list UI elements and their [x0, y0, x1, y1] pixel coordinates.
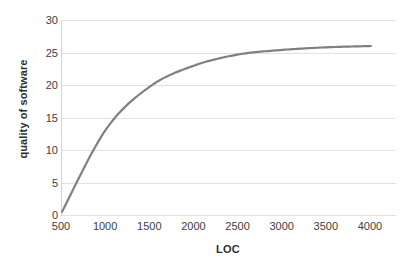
x-axis-tick-label: 2000: [181, 220, 205, 232]
x-axis-tick-label: 500: [52, 220, 70, 232]
y-axis-title-label: quality of software: [17, 59, 29, 158]
y-axis-tick-label: 10: [46, 144, 58, 156]
x-axis-tick-label: 3000: [269, 220, 293, 232]
x-axis-title: LOC: [61, 243, 395, 255]
x-axis-tick-labels: 5001000150020002500300035004000: [61, 220, 395, 238]
x-axis-tick-label: 1000: [93, 220, 117, 232]
y-axis-tick-label: 5: [52, 177, 58, 189]
y-axis-tick-label: 20: [46, 79, 58, 91]
gridline: [62, 215, 396, 216]
series-line-quality-of-software: [62, 20, 396, 215]
x-axis-tick-label: 4000: [358, 220, 382, 232]
x-axis-tick-label: 3500: [314, 220, 338, 232]
y-axis-tick-label: 25: [46, 47, 58, 59]
x-axis-tick-label: 2500: [225, 220, 249, 232]
y-axis-tick-label: 15: [46, 112, 58, 124]
line-chart: quality of software 051015202530 5001000…: [0, 0, 406, 270]
x-axis-tick-label: 1500: [137, 220, 161, 232]
plot-area: [61, 20, 396, 216]
y-axis-tick-label: 30: [46, 14, 58, 26]
